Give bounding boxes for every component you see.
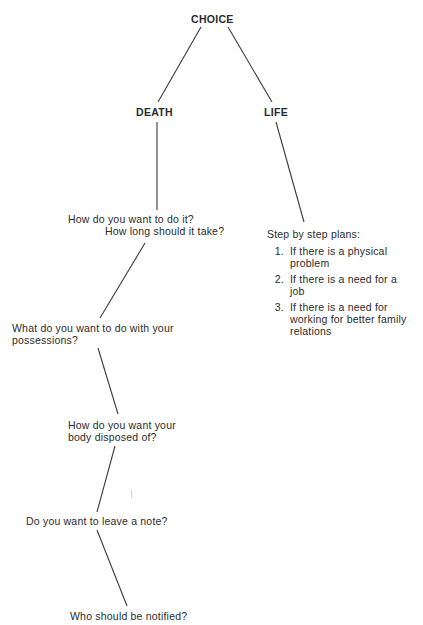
node-how-to-do-it: How do you want to do it? [68,213,194,225]
node-body-line1: How do you want your [68,419,176,431]
plan-number: 1. [267,245,290,269]
connector-life-plans [276,122,304,222]
plan-number: 3. [267,301,290,337]
scan-artifact [131,490,132,498]
connector-note-notified [97,530,127,606]
plans-heading: Step by step plans: [267,228,410,240]
connector-choice-life [228,27,272,102]
plan-item: 2. If there is a need for a job [267,273,410,297]
node-choice: CHOICE [191,13,234,25]
node-who-notified: Who should be notified? [70,610,187,622]
plan-text: If there is a need for working for bette… [290,301,410,337]
node-possessions-line2: possessions? [12,334,78,346]
connector-possessions-body [98,348,118,414]
plans-list: 1. If there is a physical problem 2. If … [267,245,410,337]
node-how-long: How long should it take? [105,225,224,237]
plan-item: 3. If there is a need for working for be… [267,301,410,337]
plan-item: 1. If there is a physical problem [267,245,410,269]
node-possessions-line1: What do you want to do with your [12,322,174,334]
node-death: DEATH [136,106,173,118]
node-body-line2: body disposed of? [68,431,157,443]
connector-how-possessions [100,243,145,318]
plan-number: 2. [267,273,290,297]
plan-text: If there is a need for a job [290,273,410,297]
connector-choice-death [158,27,201,102]
connector-body-note [97,446,115,512]
node-leave-note: Do you want to leave a note? [26,515,168,527]
node-life: LIFE [264,106,288,118]
life-plans: Step by step plans: 1. If there is a phy… [267,228,410,341]
plan-text: If there is a physical problem [290,245,410,269]
